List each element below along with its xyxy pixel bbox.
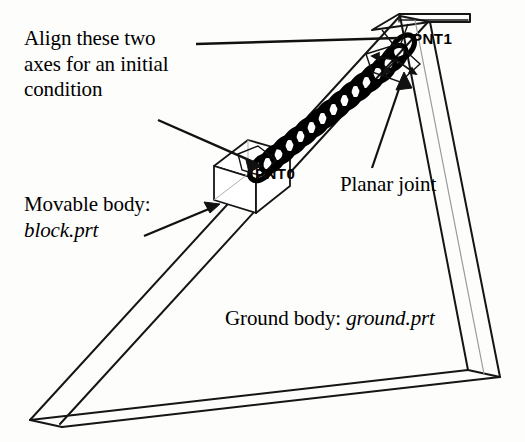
triad-axis-1-arrowhead <box>372 53 379 60</box>
align-note-line-1: Align these two <box>24 26 155 50</box>
figure-canvas: Align these two axes for an initial cond… <box>0 0 525 442</box>
ground-body-prefix: Ground body: <box>225 306 341 330</box>
wedge-back-wall-right-edge <box>430 22 500 377</box>
leader-planar-joint-to-triad <box>372 80 402 168</box>
align-axes-note: Align these two axes for an initial cond… <box>24 26 168 103</box>
planar-joint-label: Planar joint <box>340 172 436 198</box>
leader-movable-body-arrowhead <box>204 202 220 213</box>
wedge-base-back-edge <box>30 370 468 420</box>
ground-body-label: Ground body: ground.prt <box>225 306 435 332</box>
datum-point-pnt1-label: PNT1 <box>412 30 452 47</box>
leader-movable-body-to-block <box>144 206 216 236</box>
leader-align-to-pnt1 <box>196 38 398 44</box>
wedge-crest-plate <box>372 14 470 30</box>
wedge-apex-thickness-edge <box>30 420 62 427</box>
leader-align-to-pnt0 <box>158 120 258 164</box>
movable-body-prefix: Movable body: <box>24 192 150 216</box>
ground-body-part-name: ground.prt <box>346 306 435 330</box>
align-note-line-3: condition <box>24 77 102 101</box>
wedge-base-front-edge <box>62 377 500 427</box>
movable-body-part-name: block.prt <box>24 218 98 242</box>
movable-body-label: Movable body: block.prt <box>24 192 150 243</box>
datum-point-pnt0-label: PNT0 <box>255 165 295 182</box>
align-note-line-2: axes for an initial <box>24 52 168 76</box>
